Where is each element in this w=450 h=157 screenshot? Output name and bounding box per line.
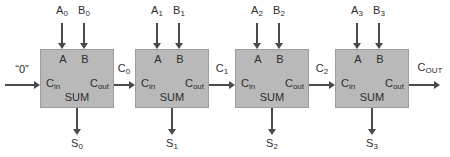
port-cout-label: Cout [385,77,404,91]
label-subscript: out [193,82,204,91]
adder-box-0: A B Cin Cout SUM [40,49,114,108]
label-text: C [46,77,54,89]
label-text: C [341,77,349,89]
label-subscript: in [249,82,255,91]
carry-cout-label: COUT [412,61,448,75]
port-sum-label: SUM [336,91,408,104]
port-b-label: B [370,53,390,66]
label-subscript: out [98,82,109,91]
input-b2-arrow [278,23,280,43]
carry-in-label: “0” [7,63,37,76]
label-subscript: in [149,82,155,91]
label-text: C [141,77,149,89]
input-b2-label: B2 [265,4,293,18]
input-a0-arrow [61,23,63,43]
port-sum-label: SUM [136,91,208,104]
input-b0-label: B0 [70,4,98,18]
label-text: C [418,61,426,73]
input-b3-label: B3 [365,4,393,18]
port-cout-label: Cout [285,77,304,91]
port-b-label: B [270,53,290,66]
port-a-label: A [248,53,268,66]
carry-c1-arrow [209,84,229,86]
port-cin-label: Cin [141,77,155,91]
output-s0-label: S0 [63,137,91,151]
adder-box-2: A B Cin Cout SUM [235,49,309,108]
label-text: C [185,77,193,89]
port-cin-label: Cin [241,77,255,91]
sum-s2-arrow [271,108,273,129]
sum-s3-arrow [371,108,373,129]
port-b-label: B [75,53,95,66]
label-text: C [216,62,224,74]
carry-cout-arrow [409,84,434,86]
label-subscript: 1 [180,9,184,18]
label-subscript: 3 [358,9,362,18]
label-subscript: 1 [158,9,162,18]
label-text: C [316,62,324,74]
port-cout-label: Cout [90,77,109,91]
input-a2-arrow [256,23,258,43]
label-subscript: 3 [380,9,384,18]
output-s2-label: S2 [258,137,286,151]
carry-c0-arrow [114,84,129,86]
port-a-label: A [53,53,73,66]
port-cin-label: Cin [341,77,355,91]
port-sum-label: SUM [41,91,113,104]
label-subscript: in [54,82,60,91]
label-subscript: 2 [324,67,328,76]
input-b0-arrow [83,23,85,43]
label-subscript: out [293,82,304,91]
input-a3-arrow [356,23,358,43]
label-subscript: OUT [426,66,443,75]
adder-box-3: A B Cin Cout SUM [335,49,409,108]
label-subscript: 0 [85,9,89,18]
port-sum-label: SUM [236,91,308,104]
ripple-carry-adder-diagram: “0” A0 B0 A B Cin Cout SUM S0 C0 A1 B1 A… [0,0,450,157]
label-text: C [90,77,98,89]
label-subscript: out [393,82,404,91]
label-subscript: 0 [63,9,67,18]
label-subscript: 1 [224,67,228,76]
label-subscript: 0 [78,142,82,151]
input-b1-arrow [178,23,180,43]
output-s1-label: S1 [158,137,186,151]
label-text: C [241,77,249,89]
port-b-label: B [170,53,190,66]
label-subscript: 3 [373,142,377,151]
label-text: C [285,77,293,89]
label-text: C [118,62,126,74]
label-text: C [385,77,393,89]
port-a-label: A [148,53,168,66]
carry-in-arrow [5,84,34,86]
port-cout-label: Cout [185,77,204,91]
carry-c0-label: C0 [110,62,138,76]
carry-c2-arrow [309,84,329,86]
label-subscript: 2 [258,9,262,18]
label-subscript: 1 [173,142,177,151]
carry-c1-label: C1 [208,62,236,76]
label-subscript: 2 [273,142,277,151]
label-subscript: 0 [126,67,130,76]
label-subscript: 2 [280,9,284,18]
output-s3-label: S3 [358,137,386,151]
adder-box-1: A B Cin Cout SUM [135,49,209,108]
sum-s0-arrow [76,108,78,129]
input-a1-arrow [156,23,158,43]
port-cin-label: Cin [46,77,60,91]
sum-s1-arrow [171,108,173,129]
label-subscript: in [349,82,355,91]
input-b1-label: B1 [165,4,193,18]
carry-c2-label: C2 [308,62,336,76]
input-b3-arrow [378,23,380,43]
port-a-label: A [348,53,368,66]
